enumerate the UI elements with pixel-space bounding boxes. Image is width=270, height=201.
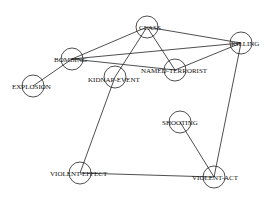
node-label: NAMED-TERRORIST <box>141 67 208 75</box>
edge-class-named-terrorist <box>147 27 175 70</box>
edge-class-killing <box>147 27 241 43</box>
node-label: VIOLENT-ACT <box>192 174 239 182</box>
edge-class-bombing <box>72 27 147 59</box>
concept-graph: CLASSKILLINGBOMBINGNAMED-TERRORISTKIDNAP… <box>0 0 270 201</box>
node-label: CLASS <box>139 24 161 32</box>
node-explosion: EXPLOSION <box>12 75 51 97</box>
node-class: CLASS <box>136 16 161 38</box>
edge-killing-violent-act <box>214 43 241 177</box>
node-label: SHOOTING <box>162 119 198 127</box>
node-label: EXPLOSION <box>12 83 51 91</box>
node-named-terrorist: NAMED-TERRORIST <box>141 59 208 81</box>
node-violent-effect: VIOLENT-EFFECT <box>50 162 108 184</box>
node-label: KIDNAP-EVENT <box>88 76 140 84</box>
edge-shooting-violent-act <box>180 122 214 177</box>
node-layer: CLASSKILLINGBOMBINGNAMED-TERRORISTKIDNAP… <box>12 16 259 188</box>
edge-kidnap-event-violent-effect <box>80 77 115 173</box>
node-bombing: BOMBING <box>54 48 87 70</box>
edge-bombing-killing <box>72 43 241 59</box>
node-label: BOMBING <box>54 56 87 64</box>
node-label: VIOLENT-EFFECT <box>50 170 108 178</box>
node-label: KILLING <box>231 40 259 48</box>
node-kidnap-event: KIDNAP-EVENT <box>88 66 140 88</box>
node-shooting: SHOOTING <box>162 111 198 133</box>
node-killing: KILLING <box>230 32 259 54</box>
edge-layer <box>33 27 241 177</box>
